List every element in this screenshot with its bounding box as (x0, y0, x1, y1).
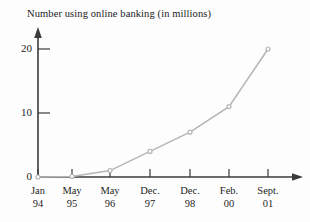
y-axis-label-10: 10 (10, 106, 32, 118)
x-axis-arrowhead (292, 173, 303, 181)
data-point-may-96 (108, 169, 112, 173)
x-label-month: Dec. (128, 184, 172, 197)
data-point-feb-00 (227, 105, 231, 109)
data-point-markers (36, 47, 270, 179)
x-label-year: 97 (128, 197, 172, 210)
x-label-year: 98 (168, 197, 212, 210)
x-label-month: Sept. (246, 184, 290, 197)
data-point-jan-94 (36, 175, 40, 179)
x-label-month: Feb. (207, 184, 251, 197)
data-point-dec-97 (148, 149, 152, 153)
x-axis-label-dec-97: Dec. 97 (128, 184, 172, 210)
y-axis-label-20: 20 (10, 42, 32, 54)
x-label-year: 96 (88, 197, 132, 210)
x-axis-label-sept-01: Sept. 01 (246, 184, 290, 210)
x-axis-label-dec-98: Dec. 98 (168, 184, 212, 210)
data-series-line (38, 49, 268, 177)
x-axis-label-may-96: May 96 (88, 184, 132, 210)
x-label-month: Dec. (168, 184, 212, 197)
data-point-dec-98 (188, 130, 192, 134)
y-axis-arrowhead (34, 27, 42, 38)
x-label-month: May (88, 184, 132, 197)
x-label-year: 00 (207, 197, 251, 210)
data-point-sept-01 (266, 47, 270, 51)
x-axis-label-feb-00: Feb. 00 (207, 184, 251, 210)
x-label-year: 01 (246, 197, 290, 210)
y-axis-label-0: 0 (10, 170, 32, 182)
data-point-may-95 (70, 174, 74, 178)
chart-figure: Number using online banking (in millions… (0, 0, 310, 222)
